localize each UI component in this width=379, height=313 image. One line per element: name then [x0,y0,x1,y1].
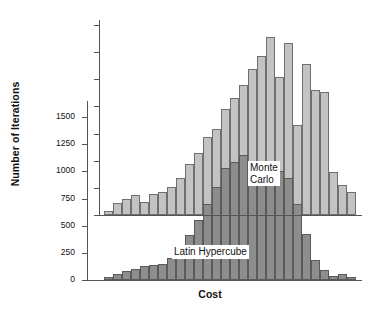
latin-hypercube-bar [257,171,266,280]
latin-hypercube-baseline [87,280,362,281]
monte-carlo-bar [302,64,311,215]
monte-carlo-bar [320,92,329,215]
y-tick-label: 750 [35,194,75,203]
latin-hypercube-bar [158,264,167,280]
monte-carlo-bar [338,185,347,215]
monte-carlo-bar [329,172,338,215]
y-tick-mark [82,226,87,227]
monte-carlo-annotation: Monte Carlo [248,161,280,186]
monte-carlo-bar [113,203,122,215]
y-tick-label: 1500 [35,112,75,121]
latin-hypercube-bar [131,269,140,280]
latin-hypercube-bar [302,234,311,280]
latin-hypercube-bar [230,162,239,280]
monte-carlo-baseline [99,215,362,216]
y-tick-label: 1250 [35,139,75,148]
monte-carlo-bar [293,125,302,215]
latin-hypercube-annotation: Latin Hypercube [172,245,249,259]
monte-carlo-tick-mark [94,79,99,80]
y-tick-mark [82,117,87,118]
y-tick-label: 0 [35,275,75,284]
x-axis-title: Cost [120,288,300,300]
monte-carlo-tick-mark [94,188,99,189]
latin-hypercube-bar [266,178,275,280]
latin-hypercube-bar [275,171,284,280]
monte-carlo-bar [311,90,320,215]
monte-carlo-bar [194,153,203,215]
monte-carlo-bar [131,195,140,215]
y-axis-title: Number of Iterations [9,49,21,219]
y-tick-mark [82,199,87,200]
latin-hypercube-bar [239,155,248,280]
y-tick-mark [82,171,87,172]
monte-carlo-bar [185,164,194,215]
y-tick-mark [82,144,87,145]
monte-carlo-bar [347,192,356,215]
y-tick-mark [82,253,87,254]
latin-hypercube-bar [140,266,149,280]
monte-carlo-bar [140,202,149,215]
y-axis-line [87,101,88,280]
monte-carlo-axis-line [99,20,100,215]
y-tick-label: 1000 [35,166,75,175]
y-tick-label: 500 [35,221,75,230]
y-tick-label: 250 [35,248,75,257]
monte-carlo-bar [167,187,176,215]
monte-carlo-tick-mark [94,25,99,26]
monte-carlo-bar [176,178,185,215]
latin-hypercube-bar [212,187,221,280]
latin-hypercube-bar [122,271,131,280]
latin-hypercube-bar [284,178,293,280]
monte-carlo-bar [122,199,131,215]
monte-carlo-tick-mark [94,52,99,53]
monte-carlo-bar [149,194,158,215]
monte-carlo-tick-mark [94,161,99,162]
monte-carlo-tick-mark [94,106,99,107]
latin-hypercube-bar [149,265,158,280]
monte-carlo-tick-mark [94,134,99,135]
monte-carlo-bar [158,192,167,215]
latin-hypercube-bar [320,270,329,280]
histogram-figure: Number of Iterations Cost 02505007501000… [0,0,379,313]
latin-hypercube-bar [167,258,176,280]
latin-hypercube-bar [311,260,320,280]
latin-hypercube-bar [221,168,230,280]
